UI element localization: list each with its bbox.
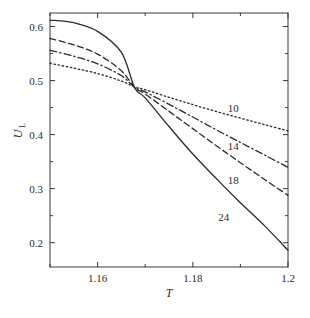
series-label-18: 18 [228, 174, 240, 186]
y-tick-label: 0.2 [29, 237, 43, 249]
y-tick-label: 0.6 [29, 21, 43, 33]
y-axis-title: U [11, 128, 25, 138]
y-tick-label: 0.4 [29, 129, 43, 141]
y-tick-label: 0.5 [29, 75, 43, 87]
x-tick-label: 1.16 [88, 272, 108, 284]
series-label-24: 24 [218, 211, 230, 223]
plot-background [0, 0, 310, 318]
x-tick-label: 1.2 [281, 272, 295, 284]
series-label-14: 14 [228, 140, 240, 152]
x-tick-label: 1.18 [183, 272, 203, 284]
series-label-10: 10 [228, 102, 240, 114]
binder-cumulant-plot: 1.161.181.20.20.30.40.50.6 10141824 T U … [0, 0, 310, 318]
figure-container: 1.161.181.20.20.30.40.50.6 10141824 T U … [0, 0, 310, 318]
y-tick-label: 0.3 [29, 183, 43, 195]
y-axis-title-subscript: L [18, 123, 27, 128]
